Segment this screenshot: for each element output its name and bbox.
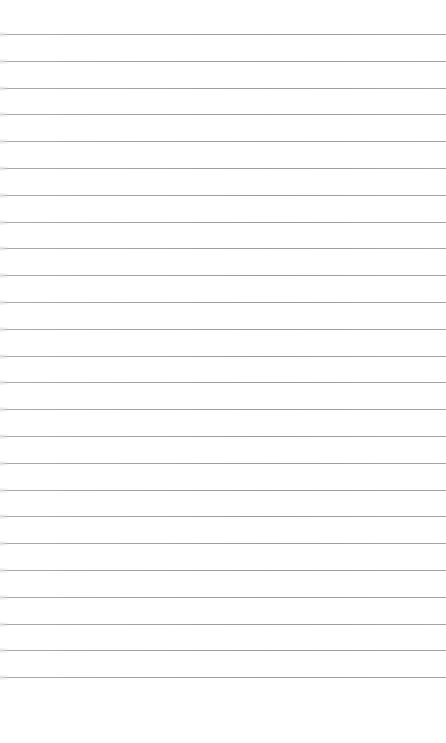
ruled-line [0, 570, 446, 571]
ruled-line [0, 168, 446, 169]
ruled-line [0, 356, 446, 357]
ruled-line [0, 650, 446, 651]
ruled-line [0, 222, 446, 223]
ruled-line [0, 114, 446, 115]
ruled-line [0, 34, 446, 35]
ruled-line [0, 677, 446, 678]
ruled-line [0, 248, 446, 249]
ruled-line [0, 463, 446, 464]
ruled-line [0, 61, 446, 62]
ruled-line [0, 516, 446, 517]
ruled-line [0, 624, 446, 625]
ruled-line [0, 88, 446, 89]
ruled-line [0, 275, 446, 276]
ruled-line [0, 409, 446, 410]
ruled-line [0, 329, 446, 330]
ruled-line [0, 302, 446, 303]
ruled-line [0, 543, 446, 544]
ruled-line [0, 490, 446, 491]
ruled-line [0, 436, 446, 437]
ruled-line [0, 195, 446, 196]
ruled-line [0, 382, 446, 383]
ruled-line [0, 141, 446, 142]
lined-paper-page [0, 0, 446, 743]
ruled-line [0, 597, 446, 598]
